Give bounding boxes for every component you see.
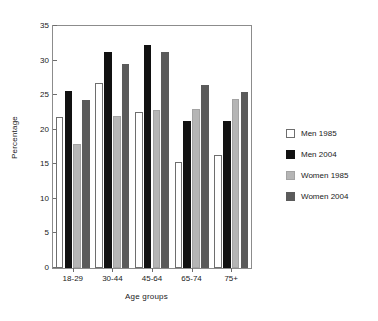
y-axis-tick: 35 <box>53 25 57 26</box>
y-axis-tick-label: 5 <box>45 228 49 237</box>
plot-area: 0510152025303518-2930-4445-6465-7475+ <box>52 25 252 269</box>
bar <box>223 121 231 268</box>
bar <box>73 144 81 268</box>
bar <box>232 99 240 268</box>
bar <box>95 83 103 268</box>
y-axis-tick-label: 20 <box>40 125 49 134</box>
chart-legend: Men 1985Men 2004Women 1985Women 2004 <box>286 123 378 207</box>
x-axis-tick <box>152 268 153 272</box>
bar <box>135 112 143 268</box>
legend-label: Men 1985 <box>301 129 337 138</box>
x-axis-tick <box>192 268 193 272</box>
bar <box>153 110 161 268</box>
legend-swatch-icon <box>286 171 295 180</box>
x-axis-tick-label: 65-74 <box>181 274 201 283</box>
x-axis-tick <box>112 268 113 272</box>
bar <box>175 162 183 268</box>
bar <box>56 117 64 268</box>
legend-item[interactable]: Women 2004 <box>286 186 378 207</box>
x-axis-tick <box>73 268 74 272</box>
bar <box>82 100 90 268</box>
y-axis-tick-label: 30 <box>40 56 49 65</box>
legend-label: Women 1985 <box>301 171 348 180</box>
bar <box>104 52 112 268</box>
legend-swatch-icon <box>286 150 295 159</box>
bar <box>65 91 73 268</box>
bar <box>122 64 130 268</box>
legend-item[interactable]: Men 1985 <box>286 123 378 144</box>
bar <box>144 45 152 268</box>
bar-chart-figure: Percentage 0510152025303518-2930-4445-64… <box>0 0 378 321</box>
bar <box>241 92 249 268</box>
y-axis-title: Percentage <box>10 93 19 183</box>
legend-label: Men 2004 <box>301 150 337 159</box>
x-axis-tick <box>231 268 232 272</box>
x-axis-tick-label: 75+ <box>224 274 238 283</box>
y-axis-tick: 30 <box>53 60 57 61</box>
bar <box>192 109 200 268</box>
x-axis-tick-label: 45-64 <box>142 274 162 283</box>
x-axis-title: Age groups <box>44 292 249 301</box>
legend-swatch-icon <box>286 129 295 138</box>
bar <box>201 85 209 268</box>
bar <box>161 52 169 268</box>
legend-swatch-icon <box>286 192 295 201</box>
y-axis-tick-label: 10 <box>40 194 49 203</box>
y-axis-tick-label: 15 <box>40 159 49 168</box>
y-axis-tick-label: 35 <box>40 21 49 30</box>
y-axis-tick-label: 0 <box>45 263 49 272</box>
y-axis-tick: 25 <box>53 94 57 95</box>
bar <box>113 116 121 268</box>
bar <box>214 155 222 268</box>
legend-label: Women 2004 <box>301 192 348 201</box>
y-axis-tick-label: 25 <box>40 90 49 99</box>
legend-item[interactable]: Women 1985 <box>286 165 378 186</box>
x-axis-tick-label: 30-44 <box>102 274 122 283</box>
legend-item[interactable]: Men 2004 <box>286 144 378 165</box>
bar <box>183 121 191 268</box>
x-axis-tick-label: 18-29 <box>63 274 83 283</box>
